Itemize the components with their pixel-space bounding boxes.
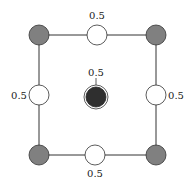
edge-atom-bottom [85,145,105,165]
label-center: 0.5 [88,67,104,78]
label-bottom: 0.5 [87,168,103,179]
corner-atom-br [146,145,166,165]
label-top: 0.5 [89,10,105,21]
edge-atom-top [87,25,107,45]
corner-atom-tr [146,25,166,45]
corner-atom-tl [29,25,49,45]
edge-atom-left [29,85,49,105]
label-left: 0.5 [11,90,27,101]
label-right: 0.5 [168,90,184,101]
corner-atom-bl [29,145,49,165]
edge-atom-right [146,85,166,105]
center-atom [84,78,108,109]
unit-cell-diagram: 0.5 0.5 0.5 0.5 0.5 [0,0,193,187]
diagram-canvas: 0.5 0.5 0.5 0.5 0.5 [0,0,193,187]
